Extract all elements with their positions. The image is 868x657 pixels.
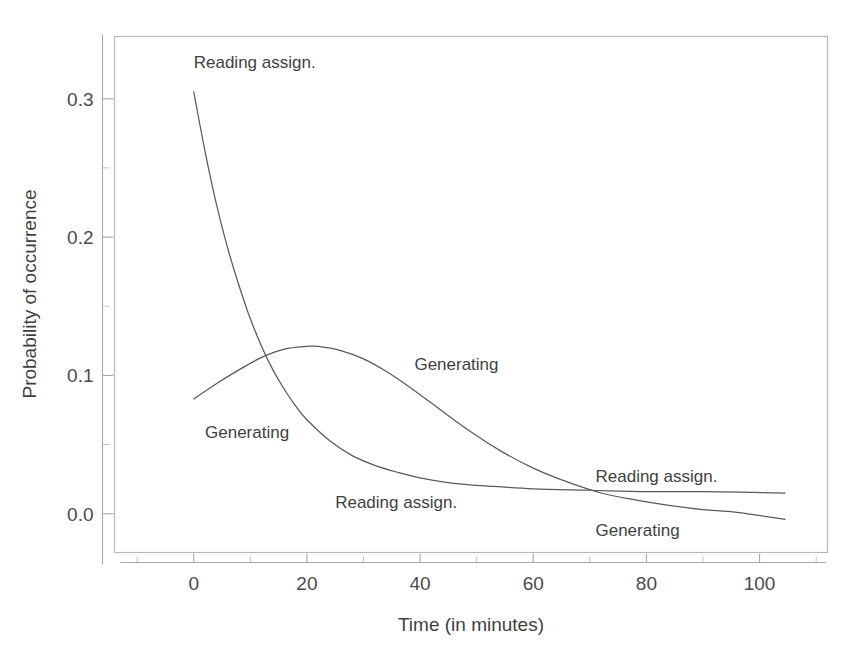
curve-label-reading-bottom: Reading assign. (335, 493, 457, 512)
y-tick-label-3: 0.3 (67, 89, 93, 110)
y-tick-label-1: 0.1 (67, 365, 93, 386)
curve-label-generating-right: Generating (595, 521, 679, 540)
chart-canvas: 020406080100 0.00.10.20.3 Reading assign… (0, 0, 868, 657)
x-tick-label-4: 80 (636, 573, 657, 594)
chart-figure: 020406080100 0.00.10.20.3 Reading assign… (0, 0, 868, 657)
x-tick-label-2: 40 (410, 573, 431, 594)
x-axis-title: Time (in minutes) (398, 614, 544, 635)
y-axis-tick-labels: 0.00.10.20.3 (67, 89, 93, 525)
x-axis-ticks (137, 554, 816, 563)
y-axis-ticks (103, 99, 114, 514)
y-tick-label-0: 0.0 (67, 504, 93, 525)
curve-label-generating-peak: Generating (414, 355, 498, 374)
x-tick-label-0: 0 (188, 573, 199, 594)
y-axis-title: Probability of occurrence (19, 189, 40, 398)
curve-label-reading-right: Reading assign. (595, 467, 717, 486)
y-tick-label-2: 0.2 (67, 227, 93, 248)
x-tick-label-5: 100 (744, 573, 776, 594)
plot-frame (115, 37, 828, 553)
data-curves (194, 92, 785, 519)
x-tick-label-1: 20 (296, 573, 317, 594)
curve-label-generating-left: Generating (205, 423, 289, 442)
curve-annotations: Reading assign.GeneratingGeneratingReadi… (194, 53, 718, 540)
curve-label-reading-top: Reading assign. (194, 53, 316, 72)
x-axis-tick-labels: 020406080100 (188, 573, 775, 594)
plot-border (115, 37, 828, 553)
x-tick-label-3: 60 (523, 573, 544, 594)
